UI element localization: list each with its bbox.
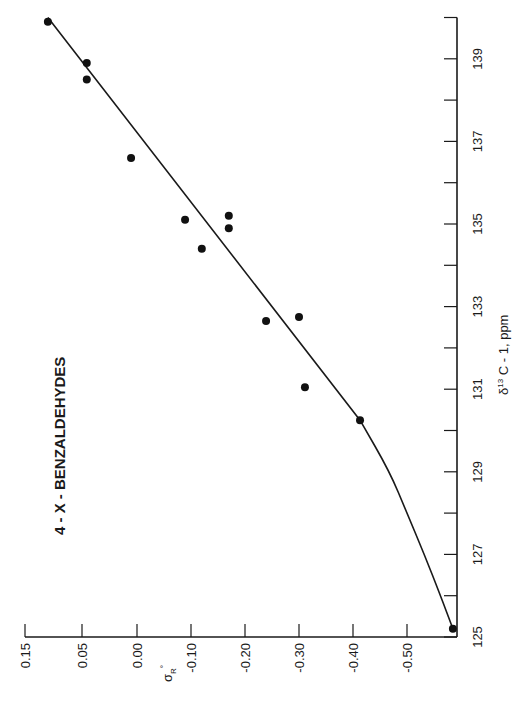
svg-text:σR°: σR°: [159, 665, 178, 682]
x-tick-label: 127: [470, 544, 485, 566]
data-point: [356, 416, 364, 424]
data-point: [127, 154, 135, 162]
y-tick-label: -0.30: [292, 643, 307, 673]
fit-curve: [48, 18, 453, 629]
y-tick-label: 0.00: [130, 643, 145, 668]
x-tick-label: 139: [470, 48, 485, 70]
svg-text:δ13 C - 1, ppm: δ13 C - 1, ppm: [496, 315, 511, 395]
data-point: [449, 625, 457, 633]
data-point: [301, 383, 309, 391]
x-axis-label: δ13 C - 1, ppm: [496, 315, 511, 395]
x-tick-label: 129: [470, 461, 485, 483]
x-tick-label: 137: [470, 131, 485, 153]
axes: 1251271291311331351371390.150.050.00-0.1…: [18, 18, 485, 673]
y-tick-label: -0.40: [346, 643, 361, 673]
data-point: [83, 59, 91, 67]
data-point: [198, 245, 206, 253]
data-point: [225, 224, 233, 232]
y-tick-label: 0.05: [75, 643, 90, 668]
data-point: [295, 313, 303, 321]
fit-curve-path: [48, 18, 453, 629]
x-tick-label: 131: [470, 378, 485, 400]
data-point: [181, 216, 189, 224]
x-tick-label: 133: [470, 296, 485, 318]
y-axis-label: σR°: [159, 665, 178, 682]
data-point: [225, 212, 233, 220]
data-point: [44, 18, 52, 26]
data-points: [44, 18, 457, 633]
data-point: [83, 75, 91, 83]
x-tick-label: 135: [470, 213, 485, 235]
chart-title: 4 - X - BENZALDEHYDES: [51, 357, 68, 535]
scatter-chart: 1251271291311331351371390.150.050.00-0.1…: [0, 0, 513, 706]
y-tick-label: 0.15: [18, 643, 33, 668]
x-tick-label: 125: [470, 626, 485, 648]
data-point: [262, 317, 270, 325]
y-tick-label: -0.10: [184, 643, 199, 673]
y-tick-label: -0.20: [238, 643, 253, 673]
y-tick-label: -0.50: [400, 643, 415, 673]
